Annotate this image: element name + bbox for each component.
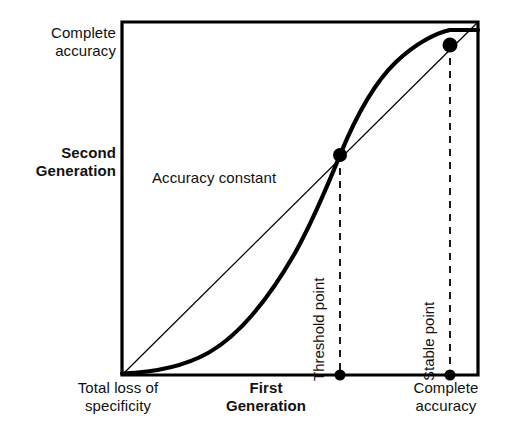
x-axis-end-label: Complete accuracy [382,379,510,415]
y-axis-top-label: Complete accuracy [10,24,116,60]
x-axis-origin-label: Total loss of specificity [56,379,180,415]
accuracy-constant-label: Accuracy constant [152,169,332,187]
threshold-point-foot-marker [335,370,346,381]
y-axis-title: Second Generation [6,144,116,180]
threshold-point-label: Threshold point [310,278,327,381]
threshold-point-marker [333,148,347,162]
stable-point-marker [443,38,458,53]
diagram-canvas: Complete accuracy Second Generation Tota… [0,0,516,440]
x-axis-title: First Generation [196,379,336,415]
stable-point-label: Stable point [420,302,437,381]
plot-area [0,0,516,440]
